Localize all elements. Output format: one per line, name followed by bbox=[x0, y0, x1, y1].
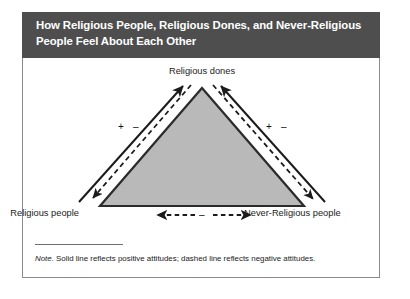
note-divider bbox=[35, 244, 123, 245]
right-negative-sign: – bbox=[281, 122, 287, 132]
figure-title: How Religious People, Religious Dones, a… bbox=[36, 18, 368, 49]
left-vertex-label: Religious people bbox=[10, 208, 79, 218]
figure-header-bar: How Religious People, Religious Dones, a… bbox=[22, 12, 380, 58]
note-text-line: Note. Solid line reflects positive attit… bbox=[35, 253, 375, 264]
left-positive-sign: + bbox=[118, 122, 124, 132]
right-vertex-label: Never-Religious people bbox=[244, 208, 341, 218]
figure-note: Note. Solid line reflects positive attit… bbox=[35, 244, 375, 264]
triangle-shape bbox=[100, 88, 304, 206]
note-body: Solid line reflects positive attitudes; … bbox=[54, 254, 315, 263]
note-lead: Note. bbox=[35, 254, 54, 263]
figure-card: Religious dones Religious people Never-R… bbox=[22, 58, 380, 278]
triangle-diagram: Religious dones Religious people Never-R… bbox=[23, 58, 381, 238]
right-positive-sign: + bbox=[266, 122, 272, 132]
left-negative-sign: – bbox=[133, 122, 139, 132]
figure-root: How Religious People, Religious Dones, a… bbox=[0, 0, 410, 299]
bottom-negative-sign: – bbox=[199, 210, 205, 220]
apex-label: Religious dones bbox=[169, 66, 235, 76]
